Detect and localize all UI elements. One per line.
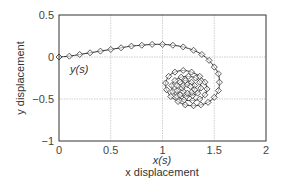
- diamond-marker: [97, 48, 103, 54]
- diamond-marker: [180, 67, 186, 73]
- diamond-marker: [205, 99, 211, 105]
- diamond-marker: [164, 87, 170, 93]
- diamond-marker: [191, 103, 197, 109]
- diamond-marker: [108, 46, 114, 52]
- x-tick-label: 1.5: [207, 144, 222, 156]
- diamond-marker: [172, 69, 178, 75]
- x-series-label: x(s): [152, 154, 172, 166]
- diamond-marker: [191, 47, 197, 53]
- y-axis-label: y displacement: [14, 41, 26, 114]
- diamond-marker: [163, 80, 169, 86]
- x-tick-label: 0: [56, 144, 62, 156]
- diamond-marker: [118, 45, 124, 51]
- diamond-marker: [175, 99, 181, 105]
- diamond-marker: [87, 50, 93, 56]
- diamond-marker: [216, 79, 222, 85]
- trajectory-series: [56, 41, 222, 108]
- y-tick-label: 0.5: [39, 9, 54, 21]
- diamond-marker: [180, 44, 186, 50]
- diamond-marker: [198, 85, 204, 91]
- diamond-marker: [204, 86, 210, 92]
- y-tick-label: −1: [41, 135, 54, 147]
- x-tick-label: 0.5: [103, 144, 118, 156]
- diamond-marker: [66, 53, 72, 59]
- y-tick-label: 0: [48, 51, 54, 63]
- diamond-marker: [197, 96, 203, 102]
- y-tick-label: −0.5: [32, 93, 54, 105]
- grid-lines: [59, 15, 266, 141]
- diamond-marker: [182, 102, 188, 108]
- diamond-marker: [199, 51, 205, 57]
- diamond-marker: [77, 51, 83, 57]
- diamond-marker: [170, 42, 176, 48]
- diamond-marker: [149, 41, 155, 47]
- diamond-marker: [139, 42, 145, 48]
- y-series-label: y(s): [69, 63, 89, 75]
- chart: 00.511.52 0.50−0.5−1 y(s) x(s) x displac…: [0, 0, 290, 189]
- x-axis-label: x displacement: [125, 166, 198, 178]
- x-tick-label: 2: [263, 144, 269, 156]
- y-axis-ticks: 0.50−0.5−1: [32, 9, 54, 147]
- diamond-marker: [128, 43, 134, 49]
- diamond-marker: [160, 41, 166, 47]
- diamond-marker: [215, 88, 221, 94]
- diamond-marker: [215, 71, 221, 77]
- diamond-marker: [198, 102, 204, 108]
